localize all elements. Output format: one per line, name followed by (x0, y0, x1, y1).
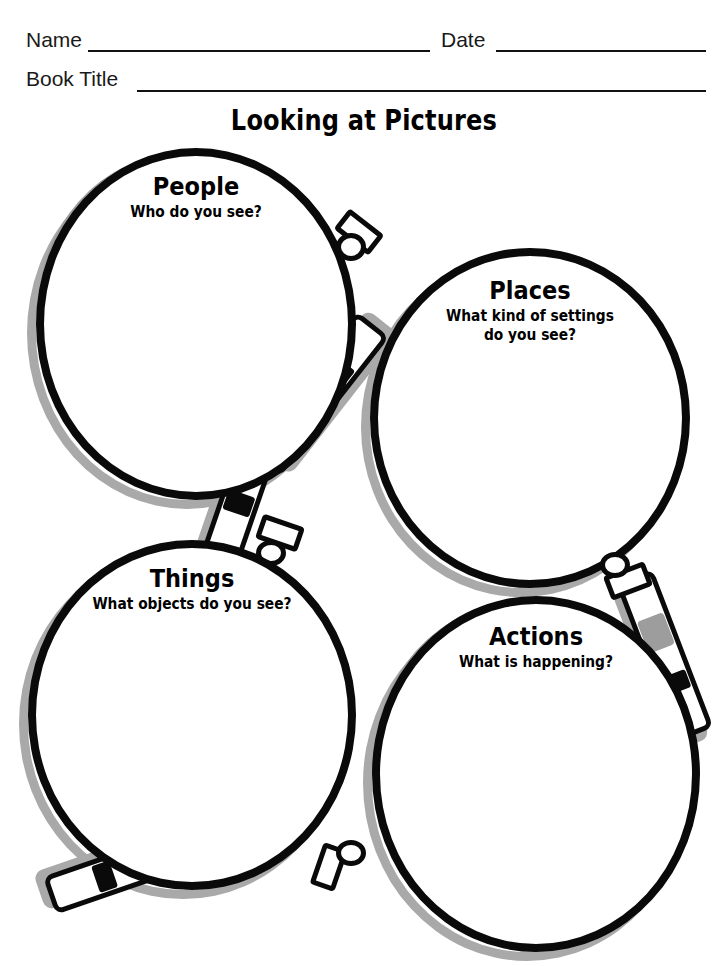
lens-actions-writing-area[interactable] (372, 596, 700, 952)
name-label: Name (26, 28, 82, 52)
name-write-line[interactable] (88, 50, 430, 52)
book-title-label: Book Title (26, 67, 118, 91)
lens-people-writing-area[interactable] (36, 148, 356, 500)
lens-things-writing-area[interactable] (28, 540, 356, 890)
people-handle-neck (336, 233, 366, 261)
date-write-line[interactable] (496, 50, 706, 52)
magnifier-people: People Who do you see? (36, 148, 356, 500)
page-title: Looking at Pictures (51, 104, 677, 137)
places-right-neck (600, 552, 630, 578)
actions-handle-neck (336, 840, 366, 866)
book-title-write-line[interactable] (137, 90, 706, 92)
magnifier-things: Things What objects do you see? (28, 540, 356, 890)
magnifier-actions: Actions What is happening? (372, 596, 700, 952)
worksheet-header: Name Date Book Title (0, 0, 728, 100)
date-label: Date (441, 28, 485, 52)
magnifier-places: Places What kind of settings do you see? (370, 248, 690, 588)
lens-places-writing-area[interactable] (370, 248, 690, 588)
